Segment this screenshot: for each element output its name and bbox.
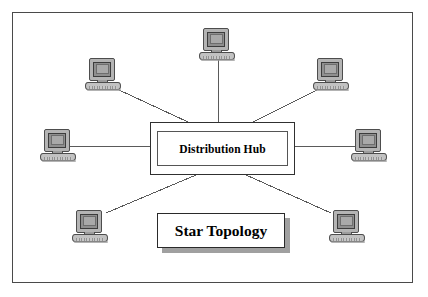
keyboard-shadow (315, 89, 349, 91)
distribution-hub-inner-border: Distribution Hub (157, 131, 288, 166)
node-top-left[interactable] (85, 58, 123, 92)
distribution-hub-box[interactable]: Distribution Hub (150, 122, 295, 175)
monitor-screen (340, 216, 353, 226)
desktop-computer-icon (317, 58, 343, 81)
node-bottom-left[interactable] (72, 210, 110, 244)
desktop-computer-icon (76, 210, 102, 233)
keyboard-shadow (353, 160, 387, 162)
node-top-right[interactable] (313, 58, 351, 92)
star-topology-caption-box: Star Topology (157, 213, 285, 248)
network-topology-diagram: Distribution Hub Star Topology (0, 0, 428, 297)
monitor-screen (362, 135, 375, 145)
monitor-bezel (359, 133, 377, 148)
keyboard-shadow (87, 89, 121, 91)
keyboard-shadow (42, 160, 76, 162)
link-hub-to-node-bottom-right (246, 175, 331, 213)
monitor-bezel (80, 214, 98, 229)
distribution-hub-label: Distribution Hub (179, 143, 265, 155)
monitor-screen (210, 34, 223, 44)
monitor-screen (96, 64, 109, 74)
desktop-computer-icon (89, 58, 115, 81)
node-right[interactable] (351, 129, 389, 163)
keyboard-shadow (74, 241, 108, 243)
node-left[interactable] (40, 129, 78, 163)
desktop-computer-icon (44, 129, 70, 152)
link-hub-to-node-bottom-left (106, 175, 196, 213)
desktop-computer-icon (355, 129, 381, 152)
monitor-screen (83, 216, 96, 226)
node-top[interactable] (199, 28, 237, 62)
monitor-bezel (337, 214, 355, 229)
monitor-bezel (207, 32, 225, 47)
keyboard-shadow (331, 241, 365, 243)
monitor-screen (51, 135, 64, 145)
monitor-bezel (321, 62, 339, 77)
star-topology-label: Star Topology (175, 222, 267, 240)
desktop-computer-icon (203, 28, 229, 51)
link-hub-to-node-top-left (119, 90, 188, 122)
monitor-bezel (48, 133, 66, 148)
link-hub-to-node-top-right (253, 90, 317, 122)
monitor-screen (324, 64, 337, 74)
monitor-bezel (93, 62, 111, 77)
node-bottom-right[interactable] (329, 210, 367, 244)
keyboard-shadow (201, 59, 235, 61)
desktop-computer-icon (333, 210, 359, 233)
